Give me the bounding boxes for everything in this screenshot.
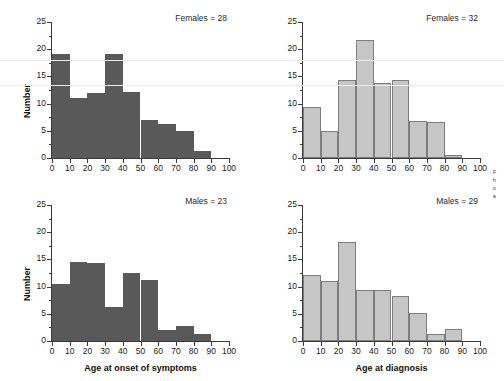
panel-count-label: Males = 29	[368, 196, 478, 206]
y-tick-major	[298, 287, 302, 288]
y-tick-major	[298, 314, 302, 315]
chart-panel-bottom-right: 05101520250102030405060708090100Males = …	[0, 0, 504, 381]
histogram-figure: 05101520250102030405060708090100Females …	[0, 0, 504, 381]
y-tick-label: 5	[273, 309, 297, 318]
y-tick-major	[298, 341, 302, 342]
y-tick-minor	[300, 219, 302, 220]
y-axis-line-bottom-right	[302, 205, 303, 341]
caption-line: o	[493, 184, 504, 192]
histogram-bar	[303, 275, 321, 341]
y-axis-title-bottom: Number	[22, 267, 32, 301]
y-tick-label: 10	[273, 282, 297, 291]
histogram-bar	[409, 313, 427, 341]
histogram-bar	[392, 296, 410, 341]
x-axis-title-right: Age at diagnosis	[303, 364, 480, 374]
y-tick-major	[298, 259, 302, 260]
histogram-bar	[427, 334, 445, 341]
figure-caption-fragment: Fhoa	[493, 168, 504, 200]
y-tick-label: 15	[273, 254, 297, 263]
y-tick-label: 25	[273, 200, 297, 209]
x-tick-label: 100	[468, 347, 492, 356]
y-tick-major	[298, 205, 302, 206]
y-tick-minor	[300, 300, 302, 301]
y-tick-label: 20	[273, 227, 297, 236]
histogram-bar	[445, 329, 463, 341]
y-tick-major	[298, 232, 302, 233]
caption-line: a	[493, 192, 504, 200]
plot-area-bottom-right	[303, 205, 480, 341]
x-axis-title-left: Age at onset of symptoms	[52, 364, 229, 374]
y-tick-minor	[300, 273, 302, 274]
y-tick-label: 0	[273, 336, 297, 345]
caption-line: h	[493, 176, 504, 184]
histogram-bar	[374, 290, 392, 341]
histogram-bar	[321, 281, 339, 341]
y-axis-title-top: Number	[22, 84, 32, 118]
histogram-bar	[338, 242, 356, 341]
caption-line: F	[493, 168, 504, 176]
y-tick-minor	[300, 246, 302, 247]
y-tick-minor	[300, 327, 302, 328]
histogram-bar	[356, 290, 374, 341]
